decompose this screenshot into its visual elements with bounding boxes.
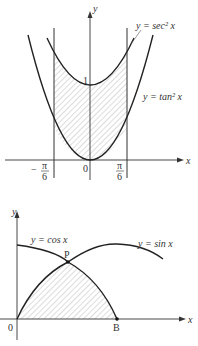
intersection-label-p: P xyxy=(64,249,70,260)
bottom-figure: y x y = cos x y = sin x P B 0 xyxy=(0,206,193,340)
right-bound-numerator: π xyxy=(117,160,122,171)
right-bound-denominator: 6 xyxy=(117,171,122,182)
left-bound-denominator: 6 xyxy=(42,171,47,182)
bottom-origin-label: 0 xyxy=(8,322,13,333)
top-origin-label: 0 xyxy=(83,163,88,174)
sin-curve-label: y = sin x xyxy=(137,238,173,249)
top-figure: y x y = sec² x y = tan² x 1 0 − π 6 π 6 xyxy=(5,3,191,182)
top-y-arrow-icon xyxy=(88,11,93,18)
tan-squared-label: y = tan² x xyxy=(142,91,182,102)
sec-squared-label: y = sec² x xyxy=(135,20,175,31)
bottom-x-axis-label: x xyxy=(187,314,193,325)
diagram-canvas: y x y = sec² x y = tan² x 1 0 − π 6 π 6 … xyxy=(0,0,198,346)
left-bound-sign: − xyxy=(31,164,37,175)
y-intercept-label: 1 xyxy=(83,75,88,86)
point-b-label: B xyxy=(113,322,120,333)
top-y-axis-label: y xyxy=(92,3,98,14)
intersection-point-p xyxy=(66,260,70,264)
top-x-arrow-icon xyxy=(177,158,184,163)
point-b xyxy=(115,317,119,321)
bottom-x-arrow-icon xyxy=(179,317,186,322)
cos-curve-label: y = cos x xyxy=(30,234,68,245)
sec-label-leader xyxy=(131,30,141,44)
left-bound-numerator: π xyxy=(42,160,47,171)
bottom-y-axis-label: y xyxy=(11,206,17,217)
top-x-axis-label: x xyxy=(185,155,191,166)
bottom-shaded-region xyxy=(17,262,117,319)
